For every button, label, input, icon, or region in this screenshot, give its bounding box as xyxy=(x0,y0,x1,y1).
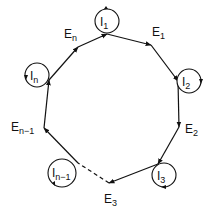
edge-en-1-b xyxy=(44,80,49,128)
edge-label-e1: E1 xyxy=(152,25,165,41)
edge-en-a xyxy=(49,47,78,80)
edge-label-e3: E3 xyxy=(104,192,117,208)
vertex-in-1: In−1 xyxy=(48,159,76,187)
edge-en-1-a xyxy=(44,128,78,163)
vertex-i3: I3 xyxy=(152,163,176,189)
edge-label-en: En xyxy=(64,27,77,43)
edge-e3-dashed xyxy=(78,163,109,183)
edge-e3-a xyxy=(109,164,158,183)
edge-e1-a xyxy=(107,34,151,45)
vertex-in: In xyxy=(24,63,49,87)
vertex-i1: I1 xyxy=(95,6,119,33)
edge-label-en-1: En−1 xyxy=(11,120,34,136)
edge-e2-b xyxy=(158,127,179,164)
edge-e1-b xyxy=(151,45,178,81)
edge-label-e2: E2 xyxy=(185,122,198,138)
vertex-i2: I2 xyxy=(177,69,203,93)
loop-arrow-icon xyxy=(104,6,108,9)
cycle-diagram: I1 I2 I3 In−1 In En E1 E2 E3 En−1 xyxy=(0,0,214,213)
edge-en-b xyxy=(78,34,107,47)
